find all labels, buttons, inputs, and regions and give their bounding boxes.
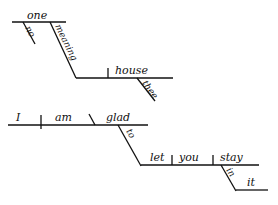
diagram-2: I am glad to let you stay in it bbox=[8, 111, 268, 191]
word-house: house bbox=[115, 64, 148, 77]
sentence-diagrams: one no meaning house thee I am glad to l… bbox=[0, 0, 278, 205]
word-you: you bbox=[178, 151, 199, 164]
word-it: it bbox=[247, 176, 256, 189]
diagram-svg: one no meaning house thee I am glad to l… bbox=[0, 0, 278, 205]
word-let: let bbox=[150, 151, 165, 164]
word-in: in bbox=[224, 166, 237, 179]
word-to: to bbox=[124, 127, 137, 140]
diagram-1: one no meaning house thee bbox=[12, 9, 173, 101]
word-glad: glad bbox=[106, 111, 130, 124]
word-thee: thee bbox=[140, 78, 160, 100]
word-one: one bbox=[27, 9, 48, 22]
word-stay: stay bbox=[220, 151, 244, 164]
word-am: am bbox=[55, 111, 72, 124]
word-I: I bbox=[15, 111, 21, 124]
divider-predicate bbox=[89, 114, 95, 125]
